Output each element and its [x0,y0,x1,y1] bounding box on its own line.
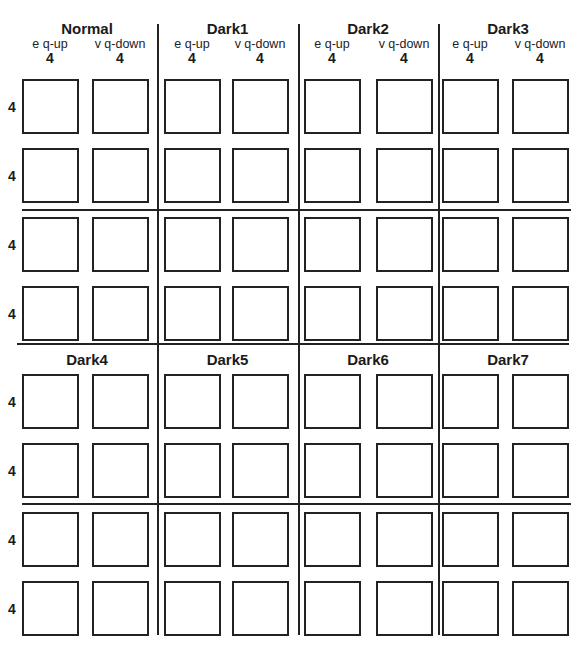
key-slot-box[interactable] [512,581,569,636]
key-slot-box[interactable] [232,512,289,567]
key-slot-box[interactable] [164,79,221,134]
column-label: v q-down [86,37,154,51]
column-label: v q-down [370,37,438,51]
key-slot-box[interactable] [304,79,361,134]
key-slot-box[interactable] [232,581,289,636]
key-slot-box[interactable] [232,374,289,429]
key-slot-box[interactable] [512,148,569,203]
key-slot-box[interactable] [304,286,361,341]
key-slot-box[interactable] [92,286,149,341]
key-slot-box[interactable] [22,443,79,498]
key-slot-box[interactable] [304,581,361,636]
group-title-3: Dark3 [438,20,578,37]
key-slot-box[interactable] [304,443,361,498]
row-label: 4 [8,99,20,115]
key-slot-box[interactable] [92,581,149,636]
key-slot-box[interactable] [512,79,569,134]
row-label: 4 [8,306,20,322]
vertical-divider [298,24,300,635]
vertical-divider [438,24,440,635]
key-slot-box[interactable] [22,79,79,134]
key-slot-box[interactable] [232,79,289,134]
row-label: 4 [8,601,20,617]
key-slot-box[interactable] [22,217,79,272]
key-slot-box[interactable] [442,79,499,134]
key-slot-box[interactable] [232,148,289,203]
column-value: 4 [506,51,574,66]
key-slot-box[interactable] [232,443,289,498]
group-title-lower-2: Dark6 [298,351,438,368]
vertical-divider [157,24,159,635]
key-slot-box[interactable] [232,217,289,272]
key-slot-box[interactable] [164,286,221,341]
key-slot-box[interactable] [22,148,79,203]
key-slot-box[interactable] [164,374,221,429]
key-slot-box[interactable] [92,374,149,429]
key-slot-box[interactable] [164,581,221,636]
row-label: 4 [8,168,20,184]
key-slot-box[interactable] [164,217,221,272]
key-slot-box[interactable] [22,374,79,429]
key-slot-box[interactable] [376,581,433,636]
group-title-lower-3: Dark7 [438,351,578,368]
key-slot-box[interactable] [232,286,289,341]
column-label: e q-up [158,37,226,51]
column-value: 4 [436,51,504,66]
key-slot-box[interactable] [92,443,149,498]
key-slot-box[interactable] [376,286,433,341]
key-slot-box[interactable] [442,581,499,636]
column-value: 4 [86,51,154,66]
key-slot-box[interactable] [442,512,499,567]
horizontal-divider [22,503,571,505]
key-slot-box[interactable] [512,512,569,567]
row-label: 4 [8,237,20,253]
column-label: v q-down [226,37,294,51]
key-slot-box[interactable] [304,512,361,567]
key-slot-box[interactable] [304,148,361,203]
column-label: e q-up [16,37,84,51]
key-slot-box[interactable] [442,217,499,272]
key-slot-box[interactable] [164,512,221,567]
key-slot-box[interactable] [442,148,499,203]
key-slot-box[interactable] [376,217,433,272]
row-label: 4 [8,463,20,479]
key-slot-box[interactable] [512,217,569,272]
key-slot-box[interactable] [442,374,499,429]
key-slot-box[interactable] [376,512,433,567]
column-label: e q-up [298,37,366,51]
key-slot-box[interactable] [512,443,569,498]
key-slot-box[interactable] [22,286,79,341]
key-slot-box[interactable] [164,148,221,203]
column-value: 4 [16,51,84,66]
key-slot-box[interactable] [376,443,433,498]
key-slot-box[interactable] [442,286,499,341]
group-title-0: Normal [17,20,157,37]
column-value: 4 [158,51,226,66]
column-value: 4 [370,51,438,66]
key-slot-box[interactable] [512,286,569,341]
group-title-lower-1: Dark5 [157,351,298,368]
column-value: 4 [298,51,366,66]
key-slot-box[interactable] [376,374,433,429]
group-title-1: Dark1 [157,20,298,37]
key-slot-box[interactable] [376,148,433,203]
key-slot-box[interactable] [512,374,569,429]
key-slot-box[interactable] [164,443,221,498]
key-slot-box[interactable] [442,443,499,498]
horizontal-divider [22,209,571,211]
key-slot-box[interactable] [92,148,149,203]
row-label: 4 [8,394,20,410]
key-slot-box[interactable] [92,512,149,567]
group-title-2: Dark2 [298,20,438,37]
key-slot-box[interactable] [304,217,361,272]
key-slot-box[interactable] [22,581,79,636]
key-slot-box[interactable] [92,79,149,134]
row-label: 4 [8,532,20,548]
key-slot-box[interactable] [376,79,433,134]
horizontal-divider [17,343,569,345]
key-slot-box[interactable] [304,374,361,429]
group-title-lower-0: Dark4 [17,351,157,368]
key-slot-box[interactable] [22,512,79,567]
key-slot-box[interactable] [92,217,149,272]
column-value: 4 [226,51,294,66]
